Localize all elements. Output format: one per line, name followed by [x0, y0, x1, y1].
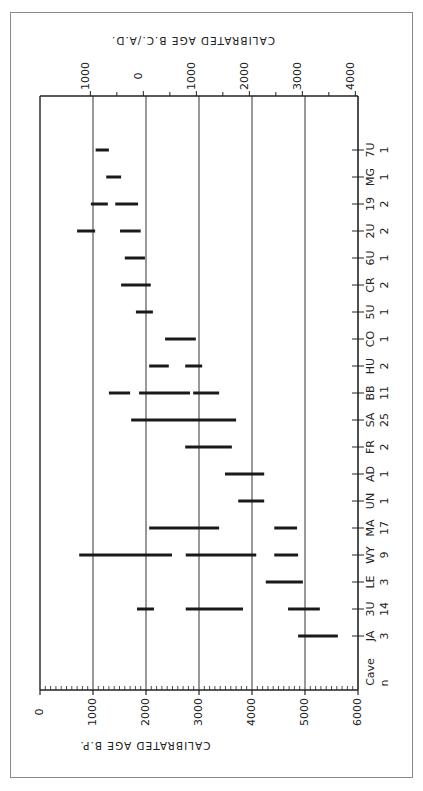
- cave-label: LE: [364, 575, 377, 588]
- bcad-tick-label: 0: [132, 73, 145, 80]
- cave-label: MG: [364, 168, 377, 186]
- cave-n-label: 2: [378, 444, 391, 451]
- cave-n-label: 1: [378, 336, 391, 343]
- cave-label: BB: [364, 385, 377, 400]
- cave-label: JA: [364, 630, 377, 642]
- cave-label: WY: [364, 546, 377, 564]
- cave-label: UN: [364, 493, 377, 509]
- bcad-axis-title: CALIBRATED AGE B.C./A.D.: [111, 35, 275, 47]
- cave-label: FR: [364, 440, 377, 454]
- cave-n-label: 2: [378, 228, 391, 235]
- bp-tick-label: 1000: [86, 698, 99, 726]
- bp-tick-label: 2000: [139, 698, 152, 726]
- cave-label: 2U: [364, 223, 377, 238]
- cave-n-label: 2: [378, 282, 391, 289]
- bp-tick-label: 0: [33, 709, 46, 716]
- bcad-tick-label: 2000: [238, 62, 251, 90]
- cave-label: 7U: [364, 142, 377, 157]
- range-chart: 0100020003000400050006000100001000200030…: [0, 0, 423, 791]
- cave-label: CR: [364, 277, 377, 293]
- cave-n-label: 3: [378, 579, 391, 586]
- cave-n-label: 1: [378, 147, 391, 154]
- cave-n-label: 1: [378, 174, 391, 181]
- cave-label: HU: [364, 358, 377, 374]
- cave-n-label: 1: [378, 498, 391, 505]
- cave-label: 3U: [364, 601, 377, 616]
- bp-tick-label: 5000: [298, 698, 311, 726]
- n-header: n: [378, 679, 391, 686]
- cave-label: SA: [364, 412, 377, 427]
- cave-n-label: 1: [378, 255, 391, 262]
- cave-n-label: 1: [378, 471, 391, 478]
- cave-n-label: 17: [378, 521, 391, 535]
- bp-tick-label: 3000: [192, 698, 205, 726]
- cave-label: CO: [364, 330, 377, 347]
- bcad-tick-label: 1000: [185, 62, 198, 90]
- cave-n-label: 11: [378, 386, 391, 400]
- cave-n-label: 25: [378, 413, 391, 427]
- bp-tick-label: 6000: [351, 698, 364, 726]
- bcad-tick-label: 1000: [79, 62, 92, 90]
- cave-label: AD: [364, 466, 377, 482]
- cave-n-label: 2: [378, 363, 391, 370]
- bp-axis-title: CALIBRATED AGE B.P.: [79, 740, 210, 752]
- cave-n-label: 9: [378, 552, 391, 559]
- cave-label: MA: [364, 519, 377, 536]
- cave-n-label: 3: [378, 633, 391, 640]
- cave-label: 6U: [364, 250, 377, 265]
- cave-n-label: 14: [378, 602, 391, 616]
- cave-n-label: 1: [378, 309, 391, 316]
- cave-label: 19: [364, 197, 377, 211]
- bcad-tick-label: 3000: [291, 62, 304, 90]
- cave-label: 5U: [364, 304, 377, 319]
- cave-n-label: 2: [378, 201, 391, 208]
- bp-tick-label: 4000: [245, 698, 258, 726]
- bcad-tick-label: 4000: [344, 62, 357, 90]
- cave-header: Cave: [364, 658, 377, 686]
